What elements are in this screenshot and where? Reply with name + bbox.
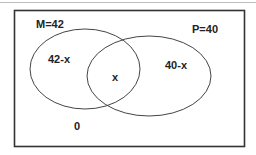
set-p-label: P=40 [192,23,218,35]
p-only-region-label: 40-x [165,59,188,71]
set-p-ellipse [87,36,211,116]
intersection-region-label: x [112,71,119,83]
m-only-region-label: 42-x [48,53,71,65]
set-m-ellipse [30,29,140,109]
set-m-label: M=42 [36,18,64,30]
outside-region-label: 0 [74,120,80,132]
venn-diagram: M=42 P=40 42-x x 40-x 0 [0,0,256,155]
